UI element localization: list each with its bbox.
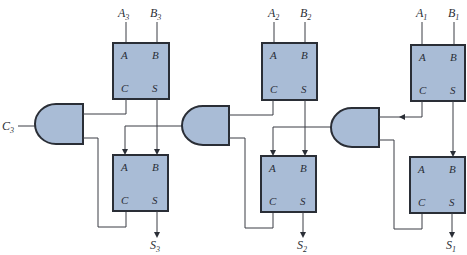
port-b: B — [300, 162, 307, 174]
port-b: B — [152, 161, 159, 173]
port-s: S — [301, 83, 307, 95]
input-label-a1: A1 — [415, 6, 427, 22]
input-label-a3: A3 — [117, 6, 129, 22]
input-label-b3: B3 — [150, 6, 161, 22]
port-a: A — [120, 49, 128, 61]
port-b: B — [450, 51, 457, 63]
wire-upper1-c-to-gate — [379, 101, 422, 117]
stage-3: A3 B3 A B C S C3 A B C S — [2, 6, 169, 254]
port-b: B — [152, 49, 159, 61]
port-a: A — [120, 161, 128, 173]
lower-block-3: A B C S — [113, 155, 168, 211]
port-a: A — [268, 162, 276, 174]
port-c: C — [269, 195, 277, 207]
wire-gate2-to-lower3-a — [125, 126, 182, 151]
port-a: A — [418, 51, 426, 63]
port-c: C — [418, 196, 426, 208]
and-gate-2 — [182, 106, 229, 145]
port-s: S — [449, 196, 455, 208]
port-s: S — [450, 84, 456, 96]
port-c: C — [121, 194, 129, 206]
input-label-b2: B2 — [300, 6, 311, 22]
carry-label-c3: C3 — [2, 119, 14, 135]
port-b: B — [449, 163, 456, 175]
wire-gate1-to-lower2-a — [273, 127, 331, 152]
wire-upper2-c-to-gate — [229, 100, 273, 115]
port-a: A — [417, 163, 425, 175]
output-label-s2: S2 — [297, 238, 307, 254]
stage-2: A2 B2 A B C S A B C S S2 — [182, 6, 317, 254]
lower-block-2: A B C S — [261, 156, 316, 212]
logic-circuit-diagram: A3 B3 A B C S C3 A B C S — [0, 0, 467, 255]
and-gate-1 — [331, 108, 379, 147]
port-c: C — [270, 83, 278, 95]
port-b: B — [301, 49, 308, 61]
port-s: S — [152, 82, 158, 94]
port-a: A — [269, 49, 277, 61]
and-gate-3 — [35, 104, 83, 144]
port-c: C — [419, 84, 427, 96]
port-c: C — [121, 82, 129, 94]
port-s: S — [300, 195, 306, 207]
output-label-s3: S3 — [150, 238, 160, 254]
upper-block-3: A B C S — [113, 43, 169, 99]
wire-upper3-c-to-gate — [83, 99, 126, 114]
output-label-s1: S1 — [446, 238, 456, 254]
upper-block-2: A B C S — [262, 43, 317, 100]
input-label-a2: A2 — [267, 6, 279, 22]
port-s: S — [152, 194, 158, 206]
lower-block-1: A B C S — [410, 157, 465, 213]
upper-block-1: A B C S — [411, 45, 465, 101]
input-label-b1: B1 — [448, 6, 459, 22]
stage-1: A1 B1 A B C S A B C S S1 — [331, 6, 465, 254]
